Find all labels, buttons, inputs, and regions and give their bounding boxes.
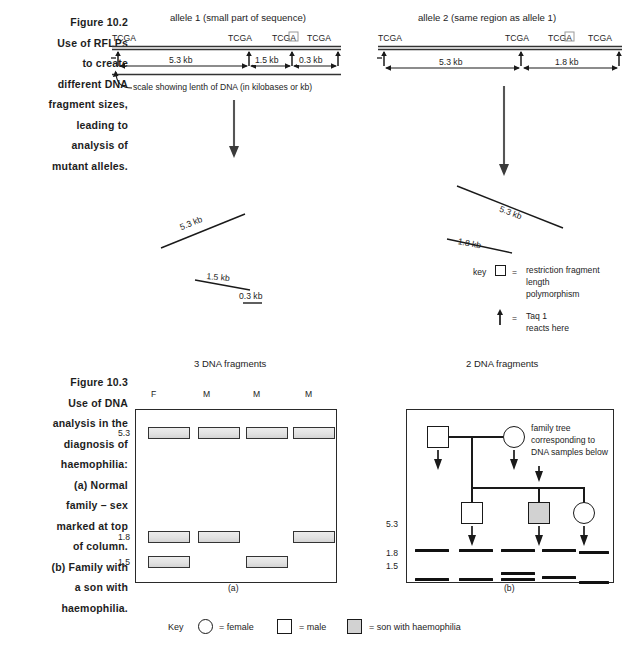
gel-a-panel-label: (a) (228, 583, 239, 593)
allele2-result-label: 2 DNA fragments (466, 358, 538, 369)
gel-band (501, 572, 535, 575)
caption-line: diagnosis of (0, 434, 128, 455)
gel-band (542, 576, 576, 579)
caption-line: of column. (0, 536, 128, 557)
gel-b-annotation: family tree (531, 423, 571, 433)
gel-band (542, 549, 576, 552)
gel-a-size-label: 1.5 (118, 557, 130, 567)
figure-103-caption: Figure 10.3 Use of DNA analysis in the d… (0, 372, 128, 618)
gel-band (198, 427, 240, 439)
caption-line: haemophilia. (0, 598, 128, 619)
bottom-key-word: Key (168, 622, 184, 632)
gel-b-annotation: corresponding to (531, 435, 595, 445)
key-affected-square-icon (347, 619, 362, 634)
gel-b-panel-label: (b) (504, 583, 515, 593)
gel-b-annotation: DNA samples below (531, 447, 608, 457)
gel-band (148, 556, 190, 568)
gel-b-size-label: 1.5 (386, 561, 398, 571)
caption-line: family – sex (0, 495, 128, 516)
caption-line: (b) Family with (0, 557, 128, 578)
gel-band (459, 578, 493, 581)
gel-band (246, 556, 288, 568)
caption-line: analysis in the (0, 413, 128, 434)
gel-a-size-label: 5.3 (118, 428, 130, 438)
bottom-key-affected-label: = son with haemophilia (369, 622, 461, 632)
gel-band (501, 578, 535, 581)
bottom-key-female-label: = female (219, 622, 254, 632)
caption-line: Use of DNA (0, 393, 128, 414)
caption-line: Figure 10.3 (0, 372, 128, 393)
gel-a-column-header: M (253, 389, 260, 399)
taq-key-text: Taq 1 (526, 311, 547, 321)
allele1-result-label: 3 DNA fragments (194, 358, 266, 369)
gel-band (148, 531, 190, 543)
gel-a-column-header: M (305, 389, 312, 399)
gel-band (501, 549, 535, 552)
caption-line: (a) Normal (0, 475, 128, 496)
gel-panel-a (135, 409, 337, 583)
caption-line: a son with (0, 577, 128, 598)
gel-band (148, 427, 190, 439)
gel-band (246, 427, 288, 439)
gel-band (198, 531, 240, 543)
gel-a-column-header: M (203, 389, 210, 399)
gel-band (579, 551, 609, 554)
gel-band (415, 578, 449, 581)
gel-band (579, 581, 609, 584)
gel-band (293, 427, 335, 439)
gel-b-size-label: 5.3 (386, 519, 398, 529)
gel-a-size-label: 1.8 (118, 532, 130, 542)
gel-band (415, 549, 449, 552)
bottom-key-male-label: = male (299, 622, 326, 632)
taq-key-text: reacts here (526, 323, 569, 333)
key-female-circle-icon (198, 619, 213, 634)
key-male-square-icon (277, 619, 292, 634)
taq-key-equals: = (512, 313, 517, 323)
gel-band (459, 549, 493, 552)
caption-line: haemophilia: (0, 454, 128, 475)
caption-line: marked at top (0, 516, 128, 537)
gel-band (293, 531, 335, 543)
taq-site-icon (0, 0, 632, 360)
gel-b-size-label: 1.8 (386, 548, 398, 558)
gel-a-column-header: F (151, 389, 156, 399)
